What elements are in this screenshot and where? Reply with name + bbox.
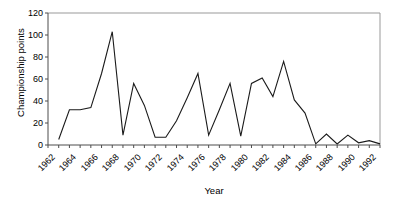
axis-lines <box>48 13 380 145</box>
data-series-line <box>59 32 380 144</box>
plot-frame <box>48 13 380 145</box>
plot-area <box>0 0 402 201</box>
championship-points-line-chart: Championship points Year 020406080100120… <box>0 0 402 201</box>
